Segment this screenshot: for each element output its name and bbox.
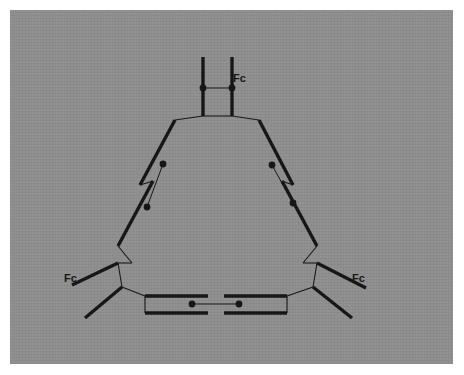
- fc-label-left: Fc: [64, 272, 77, 284]
- link-left-vertex-c: [118, 263, 122, 287]
- iron-center-layer: [144, 85, 297, 308]
- chemical-structure-diagram: Fc Fc Fc: [0, 0, 464, 375]
- fc-label-top: Fc: [233, 72, 246, 84]
- fc-label-right: Fc: [352, 272, 365, 284]
- bond-vertex-left-arm-upper: [72, 263, 118, 285]
- link-right-vertex-a: [303, 246, 317, 263]
- ferrocene-top-iron-dot-1: [200, 85, 207, 92]
- bond-right-ring-upper: [259, 120, 293, 185]
- bond-left-ring-lower: [118, 181, 153, 246]
- thin-bond-layer: [118, 116, 317, 313]
- link-right-vertex-c: [313, 263, 317, 287]
- link-top-left-ring: [175, 116, 203, 120]
- bond-right-ring-lower: [282, 181, 317, 246]
- ferrocene-bottom-iron-dot-2: [236, 301, 243, 308]
- link-right-to-bottom: [287, 287, 313, 296]
- bond-vertex-left-arm-lower: [85, 287, 122, 318]
- ferrocene-left-iron-dot-1: [160, 161, 167, 168]
- link-left-to-bottom: [122, 287, 145, 296]
- ferrocene-bottom-iron-dot-1: [189, 301, 196, 308]
- bond-vertex-right-arm-lower: [313, 287, 352, 318]
- bond-left-ring-upper: [140, 120, 175, 185]
- ferrocene-left-iron-dot-2: [144, 204, 151, 211]
- ferrocene-right-iron-dot-2: [290, 200, 297, 207]
- ferrocene-right-iron-dot-1: [269, 162, 276, 169]
- link-top-right-ring: [232, 116, 259, 120]
- ferrocene-top-iron-dot-2: [229, 85, 236, 92]
- figure-root: Fc Fc Fc: [0, 0, 464, 375]
- bold-bond-layer: [72, 57, 366, 318]
- link-left-vertex-a: [118, 246, 132, 263]
